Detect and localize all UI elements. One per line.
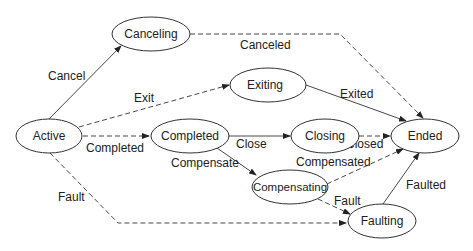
edges [49, 34, 423, 223]
state-label-faulting: Faulting [361, 214, 404, 228]
edge-label-faulted: Faulted [406, 178, 446, 192]
edge-label-compensated: Compensated [296, 155, 371, 169]
edge-label-close: Close [236, 137, 267, 151]
state-label-canceling: Canceling [124, 27, 177, 41]
edge-label-compensate: Compensate [171, 156, 239, 170]
state-label-closing: Closing [305, 129, 345, 143]
state-completed: Completed [151, 119, 229, 153]
edge-canceled [190, 34, 423, 118]
state-label-compensating: Compensating [253, 181, 327, 193]
edge-label-canceled: Canceled [240, 38, 291, 52]
state-canceling: Canceling [112, 17, 190, 51]
edge-label-exited: Exited [340, 87, 373, 101]
edge-label-exit: Exit [134, 91, 155, 105]
state-label-completed: Completed [161, 129, 219, 143]
state-label-ended: Ended [408, 129, 443, 143]
state-label-active: Active [33, 129, 66, 143]
state-faulting: Faulting [348, 204, 416, 238]
state-exiting: Exiting [230, 68, 306, 102]
state-ended: Ended [391, 119, 459, 153]
state-closing: Closing [291, 119, 359, 153]
edge-label-cancel: Cancel [48, 69, 85, 83]
edge-label-completed: Completed [86, 141, 144, 155]
edge-label-fault-active: Fault [58, 190, 85, 204]
state-compensating: Compensating [252, 170, 328, 204]
edge-labels: Cancel Exit Completed Fault Canceled Exi… [48, 38, 446, 208]
edge-label-fault-compensating: Fault [334, 194, 361, 208]
state-diagram: Cancel Exit Completed Fault Canceled Exi… [0, 0, 473, 251]
state-label-exiting: Exiting [247, 78, 283, 92]
state-active: Active [16, 119, 82, 153]
